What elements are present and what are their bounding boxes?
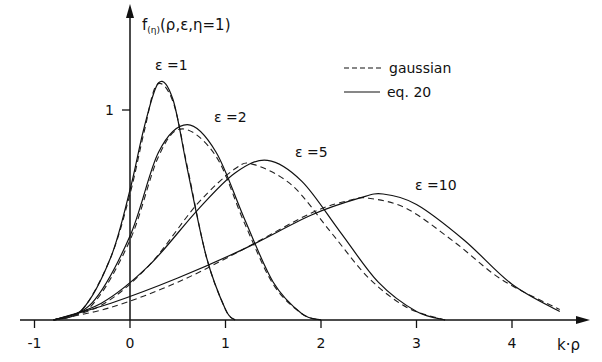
series-label: ε =1 xyxy=(155,57,188,73)
legend: gaussian eq. 20 xyxy=(344,60,451,100)
x-tick-label: 3 xyxy=(412,335,421,351)
y-tick-label: 1 xyxy=(105,102,114,118)
y-axis-arrow-icon xyxy=(126,4,134,18)
series-label: ε =2 xyxy=(214,109,247,125)
eq20-curve xyxy=(54,160,446,320)
x-tick-label: 2 xyxy=(317,335,326,351)
chart-svg: -1012341 ε =1ε =2ε =5ε =10 gaussian eq. … xyxy=(0,0,602,362)
x-tick-label: 1 xyxy=(221,335,230,351)
x-tick-label: 0 xyxy=(126,335,135,351)
x-tick-label: -1 xyxy=(28,335,42,351)
legend-label-gaussian: gaussian xyxy=(389,60,451,76)
gaussian-curve xyxy=(54,83,235,320)
legend-label-eq20: eq. 20 xyxy=(387,84,431,100)
series-label: ε =10 xyxy=(415,177,457,193)
gaussian-curve xyxy=(54,129,321,320)
chart: -1012341 ε =1ε =2ε =5ε =10 gaussian eq. … xyxy=(0,0,602,362)
series-labels: ε =1ε =2ε =5ε =10 xyxy=(155,57,457,193)
x-tick-label: 4 xyxy=(508,335,517,351)
axes: -1012341 xyxy=(20,4,590,351)
eq20-curve xyxy=(54,81,235,320)
x-axis-label: k·ρ xyxy=(557,336,580,354)
y-axis-label: f(η)(ρ,ε,η=1) xyxy=(142,16,231,35)
series-label: ε =5 xyxy=(295,144,328,160)
x-axis-arrow-icon xyxy=(576,316,590,324)
